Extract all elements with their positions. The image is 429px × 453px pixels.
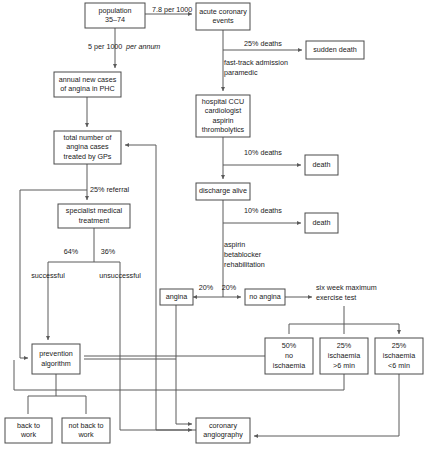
node-label-ischaemia-lt6: <6 min	[388, 361, 410, 370]
edge-label-fast-track: fast-track admission	[224, 58, 288, 67]
flowchart-canvas: population35–74acute coronaryeventssudde…	[0, 0, 429, 453]
node-ischaemia-gt6: 25%ischaemia>6 min	[320, 338, 368, 374]
edge-label-deaths-25-sudden: 25% deaths	[244, 39, 282, 48]
node-label-not-back-to-work: not back to	[68, 421, 103, 430]
node-label-discharge-alive: discharge alive	[199, 186, 247, 195]
flowchart-diagram: population35–74acute coronaryeventssudde…	[0, 0, 429, 453]
edge-label-exercise-test-1: six week maximum	[316, 283, 377, 292]
edge-angina-to-angio	[176, 359, 192, 424]
node-label-total-angina: total number of	[64, 133, 112, 142]
node-death-1: death	[305, 155, 338, 175]
node-label-total-angina: angina cases	[66, 142, 109, 151]
node-acute-coronary: acute coronaryevents	[196, 3, 250, 30]
node-discharge-alive: discharge alive	[196, 183, 250, 200]
node-hospital-ccu: hospital CCUcardiologistaspirinthromboly…	[196, 95, 250, 137]
edge-ischaemia-lt6-to-angio	[254, 374, 399, 436]
edge-label-deaths-10-discharge: 10% deaths	[244, 206, 282, 215]
node-label-no-ischaemia-50: 50%	[282, 341, 297, 350]
node-label-annual-new-cases: of angina in PHC	[60, 84, 114, 93]
nodes-layer: population35–74acute coronaryeventssudde…	[5, 3, 423, 443]
edge-label-rate-78: 7.8 per 1000	[152, 5, 192, 14]
node-label-population: population	[98, 6, 131, 15]
node-label-no-ischaemia-50: no	[285, 351, 293, 360]
node-coronary-angio: coronaryangiography	[196, 418, 250, 443]
node-label-specialist: treatment	[79, 216, 109, 225]
node-angina: angina	[160, 289, 193, 305]
node-label-hospital-ccu: aspirin	[212, 116, 233, 125]
node-label-coronary-angio: coronary	[209, 421, 237, 430]
edge-label-unsuccessful: unsuccessful	[99, 271, 141, 280]
edge-label-rate-5-annum: per annum	[125, 42, 160, 51]
edge-label-rehabilitation: rehabilitation	[224, 260, 265, 269]
node-label-prevention: algorithm	[41, 359, 71, 368]
node-label-ischaemia-lt6: ischaemia	[383, 351, 415, 360]
node-label-ischaemia-lt6: 25%	[392, 341, 407, 350]
node-label-population: 35–74	[105, 15, 125, 24]
node-total-angina: total number ofangina casestreated by GP…	[54, 131, 121, 164]
node-label-ischaemia-gt6: ischaemia	[328, 351, 360, 360]
node-label-hospital-ccu: cardiologist	[205, 106, 241, 115]
edge-label-successful: successful	[31, 271, 65, 280]
edge-label-pct-20-left: 20%	[199, 283, 214, 292]
edge-label-pct-64: 64%	[64, 247, 79, 256]
node-label-total-angina: treated by GPs	[64, 152, 112, 161]
node-label-not-back-to-work: work	[77, 430, 94, 439]
node-label-ischaemia-gt6: 25%	[337, 341, 352, 350]
edge-label-rate-5: 5 per 1000	[88, 42, 122, 51]
node-label-sudden-death: sudden death	[313, 45, 357, 54]
node-death-2: death	[305, 213, 338, 233]
node-label-acute-coronary: acute coronary	[199, 7, 247, 16]
node-label-death-1: death	[313, 160, 331, 169]
node-population: population35–74	[85, 3, 145, 28]
edge-label-betablocker: betablocker	[224, 250, 262, 259]
edge-label-deaths-10-ccu: 10% deaths	[244, 148, 282, 157]
node-label-prevention: prevention	[39, 349, 73, 358]
edge-specialist-split	[48, 228, 120, 290]
edge-label-paramedic: paramedic	[224, 68, 258, 77]
node-annual-new-cases: annual new casesof angina in PHC	[54, 72, 121, 97]
node-label-death-2: death	[313, 218, 331, 227]
node-label-hospital-ccu: hospital CCU	[202, 97, 244, 106]
node-label-no-angina: no angina	[249, 292, 281, 301]
edge-label-aspirin-2: aspirin	[224, 240, 245, 249]
node-back-to-work: back towork	[5, 418, 52, 443]
node-ischaemia-lt6: 25%ischaemia<6 min	[375, 338, 423, 374]
edge-label-exercise-test-2: exercise test	[316, 293, 356, 302]
node-label-hospital-ccu: thrombolytics	[202, 125, 245, 134]
node-label-angina: angina	[166, 292, 188, 301]
edge-angina-to-prevention	[84, 305, 176, 359]
node-label-back-to-work: back to	[17, 421, 40, 430]
edge-test-to-boxes	[289, 306, 399, 334]
node-label-annual-new-cases: annual new cases	[59, 75, 117, 84]
node-label-specialist: specialist medical	[66, 206, 123, 215]
edge-label-pct-20-right: 20%	[222, 283, 237, 292]
node-prevention: preventionalgorithm	[32, 344, 80, 374]
node-label-coronary-angio: angiography	[203, 430, 243, 439]
node-specialist: specialist medicaltreatment	[58, 204, 130, 228]
node-label-back-to-work: work	[20, 430, 37, 439]
node-sudden-death: sudden death	[306, 41, 364, 59]
edge-label-referral-25: 25% referral	[90, 185, 130, 194]
edge-prevention-split	[28, 374, 86, 414]
node-label-acute-coronary: events	[212, 16, 234, 25]
node-label-no-ischaemia-50: ischaemia	[273, 361, 305, 370]
node-label-ischaemia-gt6: >6 min	[333, 361, 355, 370]
edge-label-pct-36: 36%	[101, 247, 116, 256]
node-not-back-to-work: not back towork	[62, 418, 110, 443]
node-no-angina: no angina	[245, 289, 285, 305]
node-no-ischaemia-50: 50%noischaemia	[265, 338, 313, 374]
